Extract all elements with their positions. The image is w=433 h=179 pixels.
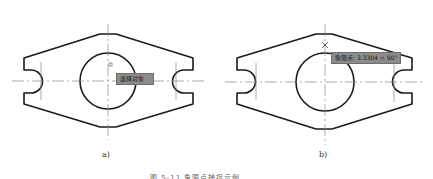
part-b-outline [237, 34, 412, 129]
figure-label-b: b) [319, 150, 327, 159]
part-b [225, 24, 425, 145]
part-a-pickbox [109, 63, 112, 66]
figure-caption: 图 5-11 象限点捕捉示例 [150, 172, 290, 179]
figure-label-a: a) [102, 150, 110, 159]
part-a [12, 24, 205, 140]
part-a-outline [24, 34, 193, 127]
drawing-canvas [0, 0, 433, 179]
tooltip-quadrant-snap: 象限点: 3.3304 < 90° [331, 52, 401, 64]
tooltip-select-object: 选择对象 [116, 73, 154, 85]
